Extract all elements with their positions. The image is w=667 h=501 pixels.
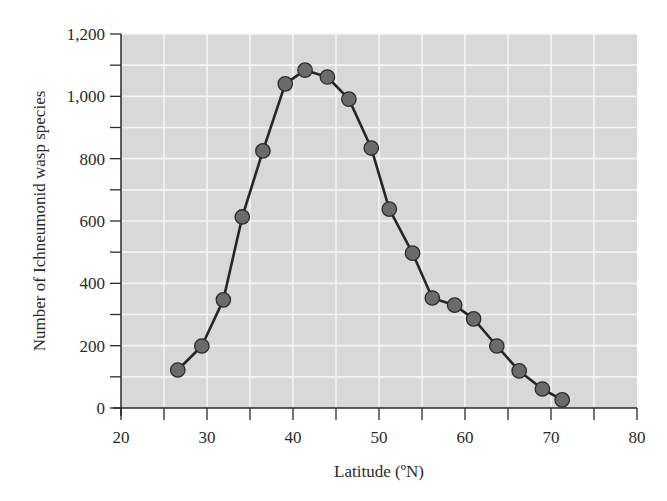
x-tick-label: 30 [199, 428, 216, 447]
x-axis-ticks: 20304050607080 [113, 408, 646, 447]
data-point-marker [235, 210, 249, 224]
y-tick-label: 800 [80, 150, 106, 169]
data-point-marker [364, 141, 378, 155]
data-point-marker [216, 293, 230, 307]
data-point-marker [342, 92, 356, 106]
data-point-marker [425, 291, 439, 305]
y-tick-label: 400 [80, 274, 106, 293]
y-tick-label: 600 [80, 212, 106, 231]
x-tick-label: 20 [113, 428, 130, 447]
x-tick-label: 70 [543, 428, 560, 447]
data-point-marker [490, 339, 504, 353]
x-tick-label: 50 [371, 428, 388, 447]
x-tick-label: 60 [457, 428, 474, 447]
data-point-marker [320, 70, 334, 84]
y-axis-title: Number of Ichneumonid wasp species [30, 91, 49, 352]
data-point-marker [298, 63, 312, 77]
data-point-marker [195, 339, 209, 353]
y-tick-label: 1,200 [67, 25, 105, 44]
data-point-marker [405, 246, 419, 260]
y-tick-label: 200 [80, 337, 106, 356]
data-point-marker [535, 382, 549, 396]
data-point-marker [278, 77, 292, 91]
y-axis-ticks: 02004006008001,0001,200 [67, 25, 121, 418]
data-point-marker [555, 393, 569, 407]
data-point-marker [382, 202, 396, 216]
y-tick-label: 1,000 [67, 87, 105, 106]
y-tick-label: 0 [97, 399, 106, 418]
line-chart: 20304050607080 02004006008001,0001,200 L… [0, 0, 667, 501]
x-tick-label: 80 [629, 428, 646, 447]
data-point-marker [447, 298, 461, 312]
data-point-marker [466, 312, 480, 326]
x-axis-title: Latitude (ºN) [334, 462, 424, 481]
data-point-marker [256, 144, 270, 158]
data-point-marker [512, 364, 526, 378]
x-tick-label: 40 [285, 428, 302, 447]
data-point-marker [171, 363, 185, 377]
